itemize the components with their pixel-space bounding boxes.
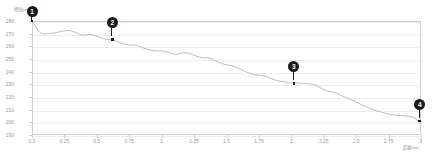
waypoint-anchor-dot (31, 20, 34, 23)
y-tick-label: 270 (6, 31, 14, 37)
x-tick-mark (162, 135, 163, 138)
y-tick-label: 250 (6, 56, 14, 62)
waypoint-pin-tail (419, 110, 420, 118)
x-tick-mark (64, 135, 65, 138)
x-tick-mark (324, 135, 325, 138)
x-tick-label: 0.25 (60, 138, 70, 144)
waypoint-number-badge[interactable]: 4 (414, 99, 425, 110)
x-tick-label: 2.25 (319, 138, 329, 144)
x-axis-title: 距離(km) (403, 144, 419, 150)
x-tick-label: 1 (160, 138, 163, 144)
y-tick-label: 280 (6, 18, 14, 24)
y-tick-label: 220 (6, 94, 14, 100)
x-tick-label: 0.0 (29, 138, 36, 144)
y-tick-label: 200 (6, 119, 14, 125)
x-tick-label: 2.75 (384, 138, 394, 144)
y-tick-label: 240 (6, 69, 14, 75)
x-tick-mark (129, 135, 130, 138)
y-tick-label: 260 (6, 43, 14, 49)
plot-area (32, 21, 421, 135)
x-tick-label: 2 (290, 138, 293, 144)
x-tick-mark (97, 135, 98, 138)
y-tick-label: 210 (6, 107, 14, 113)
x-tick-mark (356, 135, 357, 138)
x-tick-mark (194, 135, 195, 138)
x-tick-label: 0.5 (93, 138, 100, 144)
x-tick-mark (259, 135, 260, 138)
x-tick-mark (32, 135, 33, 138)
x-tick-mark (421, 135, 422, 138)
x-tick-label: 1.25 (189, 138, 199, 144)
elevation-line (33, 22, 420, 124)
waypoint-pin-tail (293, 72, 294, 80)
x-tick-label: 3 (420, 138, 423, 144)
x-tick-label: 2.5 (353, 138, 360, 144)
waypoint-anchor-dot (418, 120, 421, 123)
elevation-profile-chart: 標高(m) 280270260250240230220210200190 0.0… (0, 0, 445, 159)
y-axis-tick-labels: 280270260250240230220210200190 (0, 0, 30, 159)
x-tick-label: 1.75 (254, 138, 264, 144)
waypoint-anchor-dot (293, 82, 296, 85)
x-tick-mark (227, 135, 228, 138)
x-tick-mark (389, 135, 390, 138)
x-tick-label: 0.75 (124, 138, 134, 144)
waypoint-anchor-dot (111, 38, 114, 41)
elevation-series (33, 22, 420, 134)
waypoint-pin-tail (111, 28, 112, 36)
x-tick-mark (291, 135, 292, 138)
x-tick-label: 1.5 (223, 138, 230, 144)
waypoint-number-badge[interactable]: 1 (27, 6, 38, 17)
x-axis-tick-labels: 0.00.250.50.7511.251.51.7522.252.52.753 (0, 137, 445, 147)
y-tick-label: 230 (6, 81, 14, 87)
